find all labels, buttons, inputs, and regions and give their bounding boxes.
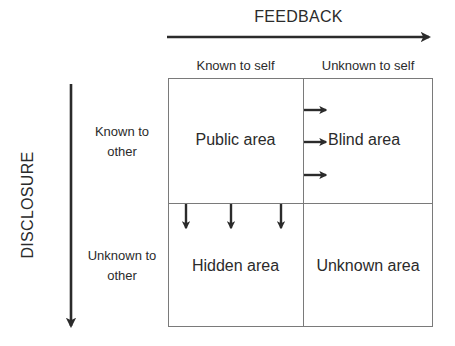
arrows-layer [0, 0, 455, 346]
